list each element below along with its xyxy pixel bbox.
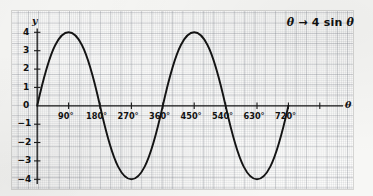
y-tick-label-3: 3: [23, 46, 29, 55]
annotation-arrow-icon: →: [298, 16, 307, 29]
y-tick-label-1: 1: [23, 83, 29, 92]
y-axis-label: y: [32, 16, 38, 26]
annotation-expression: 4 sin: [312, 16, 343, 29]
x-tick-label-450: 450°: [181, 112, 202, 120]
x-tick-label-540: 540°: [212, 112, 233, 120]
x-tick-label-630: 630°: [244, 112, 265, 120]
y-tick-label-4: 4: [23, 28, 29, 37]
y-tick-label-minus-2: −2: [18, 138, 32, 147]
y-tick-label-minus-3: −3: [18, 156, 32, 165]
x-tick-label-720: 720°: [275, 112, 296, 120]
x-tick-label-360: 360°: [149, 112, 170, 120]
x-tick-label-180: 180°: [86, 112, 107, 120]
x-axis-label: θ: [345, 100, 351, 110]
plot-area: [0, 0, 373, 196]
function-annotation: θ → 4 sin θ: [287, 16, 354, 29]
sine-graph-figure: 4 3 2 1 0 −1 −2 −3 −4 90° 180° 270° 360°…: [0, 0, 373, 196]
y-tick-label-0: 0: [23, 101, 29, 110]
y-tick-label-minus-4: −4: [18, 175, 32, 184]
annotation-theta-right: θ: [346, 16, 354, 29]
x-tick-label-90: 90°: [58, 112, 74, 120]
annotation-theta-left: θ: [287, 16, 295, 29]
x-tick-label-270: 270°: [118, 112, 139, 120]
y-tick-label-2: 2: [23, 64, 29, 73]
y-tick-label-minus-1: −1: [18, 119, 32, 128]
